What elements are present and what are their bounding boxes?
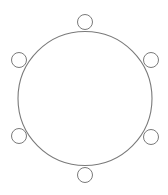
chair-top: [78, 15, 93, 30]
chair-bottom: [78, 168, 93, 183]
chair-lower-right: [144, 130, 159, 145]
chairs-group: [12, 15, 159, 183]
round-table-diagram: [0, 0, 168, 195]
chair-upper-right: [144, 53, 159, 68]
chair-lower-left: [12, 129, 27, 144]
chair-upper-left: [12, 53, 27, 68]
round-table: [18, 32, 152, 166]
